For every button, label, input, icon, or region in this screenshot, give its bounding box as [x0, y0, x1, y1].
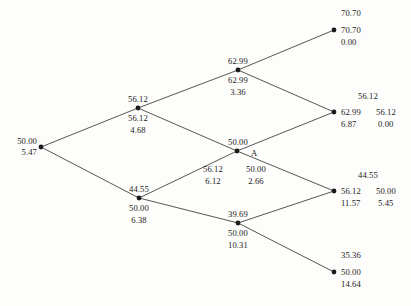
- terminal-upper-mid-stock-b-label: 56.12: [376, 107, 396, 117]
- down1-stock-label: 50.00: [129, 203, 149, 213]
- terminal-lower-mid-stock-a-label: 56.12: [341, 186, 361, 196]
- up1-above-label: 56.12: [128, 94, 148, 104]
- edge-root-up1: [41, 108, 138, 147]
- down2-value-label: 10.31: [228, 240, 248, 250]
- edge-down1-down2: [139, 198, 238, 223]
- down1-above-label: 44.55: [129, 184, 149, 194]
- up2-value-label: 3.36: [230, 87, 245, 97]
- edge-down1-mid2: [139, 151, 237, 198]
- up2-stock-label: 62.99: [228, 75, 248, 85]
- mid2-value-b-label: 2.66: [248, 176, 263, 186]
- node-root[interactable]: [39, 145, 44, 150]
- edge-up1-up2: [138, 70, 238, 108]
- terminal-upper-mid-above-label: 56.12: [358, 91, 378, 101]
- edge-up2-term-upmid: [238, 70, 334, 112]
- mid2-above-label: 50.00: [228, 137, 248, 147]
- mid2-stock-a-label: 56.12: [203, 164, 223, 174]
- node-terminal-top[interactable]: [332, 28, 337, 33]
- tree-nodes: [39, 28, 337, 275]
- terminal-bottom-above-label: 35.36: [341, 250, 361, 260]
- mid2-value-a-label: 6.12: [205, 176, 220, 186]
- edge-down2-term-bottom: [238, 223, 334, 272]
- down2-stock-label: 50.00: [228, 228, 248, 238]
- terminal-lower-mid-value-a-label: 11.57: [341, 198, 361, 208]
- terminal-upper-mid-stock-a-label: 62.99: [341, 107, 361, 117]
- node-up2[interactable]: [236, 68, 241, 73]
- down1-value-label: 6.38: [131, 215, 146, 225]
- edge-up1-mid2: [138, 108, 237, 151]
- edge-mid2-term-upmid: [237, 112, 334, 151]
- terminal-upper-mid-value-a-label: 6.87: [341, 119, 356, 129]
- node-terminal-bottom[interactable]: [332, 270, 337, 275]
- terminal-top-value-label: 0.00: [341, 37, 356, 47]
- terminal-top-stock-label: 70.70: [341, 25, 361, 35]
- tree-edges: [41, 30, 334, 272]
- mid2-stock-b-label: 50.00: [246, 164, 266, 174]
- node-down2[interactable]: [236, 221, 241, 226]
- up2-above-label: 62.99: [228, 56, 248, 66]
- down2-above-label: 39.69: [228, 209, 248, 219]
- terminal-bottom-value-label: 14.64: [341, 279, 361, 289]
- root-value-label: 5.47: [22, 147, 37, 157]
- node-down1[interactable]: [137, 196, 142, 201]
- root-stock-label: 50.00: [17, 136, 37, 146]
- node-terminal-lower-mid[interactable]: [332, 189, 337, 194]
- edge-down2-term-lowmid: [238, 191, 334, 223]
- up1-value-label: 4.68: [130, 125, 145, 135]
- terminal-lower-mid-above-label: 44.55: [358, 170, 378, 180]
- node-mid2-a[interactable]: [235, 149, 240, 154]
- node-a-marker-label: A: [251, 148, 257, 158]
- node-up1[interactable]: [136, 106, 141, 111]
- node-terminal-upper-mid[interactable]: [332, 110, 337, 115]
- terminal-upper-mid-value-b-label: 0.00: [378, 119, 393, 129]
- edge-root-down1: [41, 147, 139, 198]
- edge-up2-term-top: [238, 30, 334, 70]
- terminal-lower-mid-stock-b-label: 50.00: [376, 186, 396, 196]
- up1-stock-label: 56.12: [128, 113, 148, 123]
- terminal-bottom-stock-label: 50.00: [341, 267, 361, 277]
- terminal-lower-mid-value-b-label: 5.45: [378, 198, 393, 208]
- terminal-top-above-label: 70.70: [341, 8, 361, 18]
